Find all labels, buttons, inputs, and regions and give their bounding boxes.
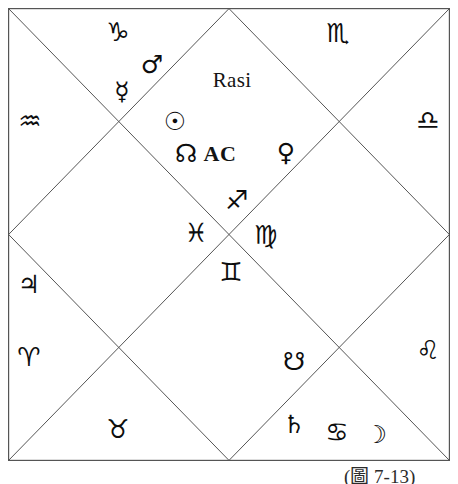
sign-capricorn[interactable]: ♑	[106, 19, 129, 45]
sign-cancer[interactable]: ♋	[325, 419, 348, 445]
planet-mercury[interactable]: ☿	[114, 79, 129, 104]
sign-gemini[interactable]: ♊	[219, 259, 242, 285]
node-rahu[interactable]: ☊	[175, 141, 197, 166]
planet-jupiter[interactable]: ♃	[18, 272, 40, 297]
planet-sun[interactable]: ☉	[164, 109, 186, 134]
planet-venus[interactable]: ♀	[277, 140, 295, 165]
planet-mars[interactable]: ♂	[141, 52, 163, 77]
page-title: Rasi	[213, 70, 252, 91]
node-ketu[interactable]: ☋	[283, 349, 305, 374]
ascendant-label[interactable]: AC	[204, 143, 237, 165]
sign-libra[interactable]: ♎	[416, 107, 439, 133]
glyph-layer: Rasi ♑ ♏ ♒ ♎ ♐ ♓ ♍ ♊ ♉ ♈ ♌ ♋ ♂ ☿ ☉ ♀ ♃ ♄…	[0, 0, 458, 484]
figure-caption: (圖 7-13)	[344, 466, 415, 484]
rasi-chart-page: Rasi ♑ ♏ ♒ ♎ ♐ ♓ ♍ ♊ ♉ ♈ ♌ ♋ ♂ ☿ ☉ ♀ ♃ ♄…	[0, 0, 458, 484]
sign-pisces[interactable]: ♓	[184, 220, 207, 246]
planet-moon[interactable]: ☽	[365, 422, 387, 447]
sign-leo[interactable]: ♌	[416, 337, 439, 363]
sign-aquarius[interactable]: ♒	[18, 108, 41, 134]
sign-sagittarius[interactable]: ♐	[225, 187, 248, 213]
sign-scorpio[interactable]: ♏	[326, 20, 349, 46]
sign-aries[interactable]: ♈	[17, 344, 40, 370]
sign-taurus[interactable]: ♉	[106, 416, 129, 442]
planet-saturn[interactable]: ♄	[283, 412, 305, 437]
sign-virgo[interactable]: ♍	[254, 222, 277, 248]
